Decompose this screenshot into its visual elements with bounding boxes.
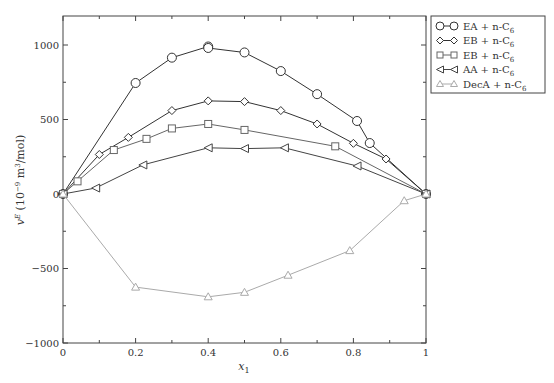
chart: 00.20.40.60.81−1000−50005001000 x1 vE (1… bbox=[0, 0, 554, 383]
diamond-marker-icon bbox=[313, 120, 321, 128]
circle-marker-icon bbox=[131, 78, 140, 87]
x-tick-label: 0.8 bbox=[345, 347, 361, 358]
square-marker-icon bbox=[451, 52, 457, 58]
series-line bbox=[63, 194, 426, 297]
series-circle bbox=[59, 42, 431, 199]
square-marker-icon bbox=[74, 178, 81, 185]
circle-marker-icon bbox=[167, 53, 176, 62]
triangle-left-marker-icon bbox=[241, 145, 249, 153]
x-tick-label: 0.2 bbox=[128, 347, 144, 358]
y-tick-label: −500 bbox=[32, 263, 59, 274]
diamond-marker-icon bbox=[349, 139, 357, 147]
circle-marker-icon bbox=[313, 90, 322, 99]
x-tick-label: 0 bbox=[60, 347, 66, 358]
square-marker-icon bbox=[241, 126, 248, 133]
triangle-up-marker-icon bbox=[284, 271, 292, 278]
x-axis-label: x1 bbox=[238, 360, 249, 375]
diamond-marker-icon bbox=[204, 97, 212, 105]
x-tick-label: 0.6 bbox=[273, 347, 289, 358]
y-axis-label: vE (10−9 m3/mol) bbox=[14, 135, 27, 225]
triangle-up-marker-icon bbox=[241, 288, 249, 295]
diamond-marker-icon bbox=[168, 107, 176, 115]
x-tick-label: 1 bbox=[423, 347, 429, 358]
triangle-left-marker-icon bbox=[139, 161, 147, 169]
legend: EA + n-C6EB + n-C6EB + n-C6AA + n-C6DecA… bbox=[431, 16, 545, 93]
y-tick-label: −1000 bbox=[25, 338, 59, 349]
circle-marker-icon bbox=[450, 22, 458, 30]
circle-marker-icon bbox=[436, 22, 444, 30]
square-marker-icon bbox=[168, 125, 175, 132]
diamond-marker-icon bbox=[277, 107, 285, 115]
circle-marker-icon bbox=[276, 67, 285, 76]
square-marker-icon bbox=[110, 147, 117, 154]
square-marker-icon bbox=[205, 120, 212, 127]
series-line bbox=[63, 124, 426, 194]
circle-marker-icon bbox=[365, 139, 374, 148]
x-tick-label: 0.4 bbox=[200, 347, 216, 358]
square-marker-icon bbox=[143, 135, 150, 142]
y-tick-label: 1000 bbox=[34, 40, 59, 51]
square-marker-icon bbox=[437, 52, 443, 58]
y-tick-label: 500 bbox=[40, 114, 59, 125]
circle-marker-icon bbox=[204, 43, 213, 52]
series-line bbox=[63, 148, 426, 194]
square-marker-icon bbox=[332, 143, 339, 150]
series-layer bbox=[59, 42, 431, 300]
series-square bbox=[60, 120, 430, 197]
circle-marker-icon bbox=[353, 116, 362, 125]
triangle-left-marker-icon bbox=[353, 162, 361, 170]
diamond-marker-icon bbox=[241, 98, 249, 106]
triangle-left-marker-icon bbox=[204, 144, 212, 152]
axis-ticks: 00.20.40.60.81−1000−50005001000 bbox=[25, 16, 429, 358]
triangle-left-marker-icon bbox=[280, 144, 288, 152]
circle-marker-icon bbox=[240, 48, 249, 57]
series-triangle-up bbox=[59, 190, 430, 300]
diamond-marker-icon bbox=[124, 133, 132, 141]
triangle-left-marker-icon bbox=[92, 184, 100, 192]
